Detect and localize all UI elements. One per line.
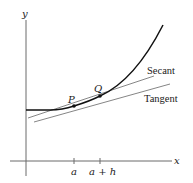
point-q-label: Q <box>94 83 102 94</box>
tick-label-a-plus-h: a + h <box>89 166 116 177</box>
secant-label: Secant <box>147 65 175 76</box>
tick-label-a: a <box>71 166 77 177</box>
x-axis-label: x <box>174 155 180 166</box>
point-q <box>98 94 102 98</box>
secant-line <box>28 76 154 118</box>
tangent-label: Tangent <box>144 93 178 104</box>
secant-tangent-diagram: y x a a + h P Q Secant Tangent <box>0 0 193 183</box>
y-axis-label: y <box>21 8 28 19</box>
function-curve <box>26 25 163 110</box>
point-p-label: P <box>67 94 75 105</box>
